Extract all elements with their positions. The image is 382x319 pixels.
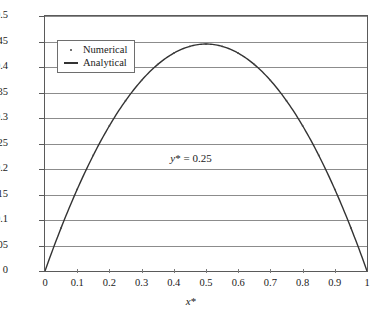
- legend-item-numerical: Numerical: [62, 43, 127, 56]
- analytical-line-icon: [62, 62, 80, 64]
- x-axis-tick-mark: [303, 269, 304, 273]
- x-axis-title: x*: [0, 295, 382, 307]
- legend-item-analytical: Analytical: [62, 56, 127, 69]
- chart-container: 00.050.10.150.20.250.30.350.40.450.5 00.…: [0, 0, 382, 319]
- plot-annotation: y* = 0.25: [0, 152, 382, 164]
- x-axis-tick-mark: [109, 269, 110, 273]
- x-axis-tick-mark: [142, 269, 143, 273]
- legend-label-numerical: Numerical: [80, 44, 127, 55]
- legend-label-analytical: Analytical: [80, 57, 127, 68]
- numerical-marker-icon: [62, 49, 80, 51]
- x-axis-tick-label: 1: [347, 278, 382, 289]
- x-axis-tick-mark: [174, 269, 175, 273]
- annotation-value: = 0.25: [181, 152, 212, 164]
- x-axis-title-star: *: [191, 295, 197, 307]
- legend: Numerical Analytical: [57, 40, 135, 73]
- x-axis-tick-mark: [335, 269, 336, 273]
- x-axis-tick-mark: [238, 269, 239, 273]
- x-axis-tick-mark: [206, 269, 207, 273]
- x-axis-tick-mark: [270, 269, 271, 273]
- x-axis-tick-mark: [77, 269, 78, 273]
